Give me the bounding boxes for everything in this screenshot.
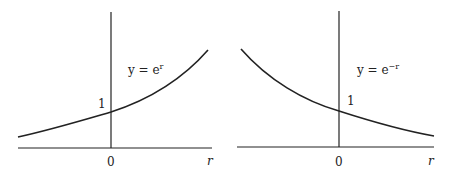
exponential-graphs-figure: y = er 1 0 r y = e−r 1 0 r	[0, 0, 449, 177]
right-equation-label: y = e−r	[357, 63, 399, 76]
right-x-axis-label: r	[428, 155, 434, 167]
left-x-axis-label: r	[207, 155, 213, 167]
left-equation-label: y = er	[128, 63, 163, 76]
right-origin-label: 0	[335, 156, 343, 168]
left-curve-exp-r	[18, 50, 208, 137]
right-y-intercept-label: 1	[347, 95, 355, 107]
right-curve-exp-neg-r	[241, 49, 434, 136]
left-y-intercept-label: 1	[98, 98, 106, 110]
axes-and-curves	[0, 0, 449, 177]
left-origin-label: 0	[107, 156, 115, 168]
